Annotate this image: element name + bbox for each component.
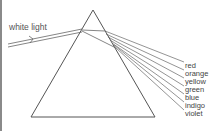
internal-ray-top [82, 30, 105, 31]
white-light-label: white light [9, 22, 47, 32]
label-violet: violet [185, 110, 203, 118]
prism-diagram: white light red orange yellow green blue… [0, 0, 221, 131]
white-light-ray-lower [8, 32, 82, 47]
